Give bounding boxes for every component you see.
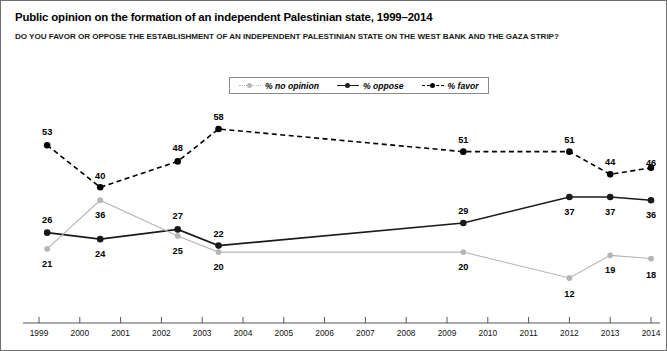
data-point[interactable]: [566, 194, 573, 201]
data-point-label: 21: [42, 259, 52, 269]
series-line-favor: [47, 129, 651, 187]
data-point[interactable]: [174, 158, 181, 165]
data-point[interactable]: [44, 142, 51, 149]
x-axis-tick-label: 2009: [438, 328, 457, 338]
data-point[interactable]: [174, 226, 181, 233]
data-point-label: 58: [213, 112, 223, 122]
x-axis-tick-label: 2006: [315, 328, 334, 338]
x-axis-tick-label: 2014: [642, 328, 661, 338]
x-axis-tick-label: 1999: [30, 328, 49, 338]
data-point-label: 26: [42, 215, 52, 225]
data-point[interactable]: [216, 249, 222, 255]
x-axis-tick-label: 2001: [111, 328, 130, 338]
data-point-label: 29: [458, 206, 468, 216]
data-point[interactable]: [215, 126, 222, 133]
data-point-label: 20: [458, 262, 468, 272]
data-point-label: 27: [173, 211, 183, 221]
data-point[interactable]: [215, 242, 222, 249]
data-point-label: 22: [213, 229, 223, 239]
data-point-label: 18: [646, 270, 656, 280]
data-point-label: 46: [646, 158, 656, 168]
x-axis-tick-label: 2008: [397, 328, 416, 338]
data-point-label: 44: [605, 157, 615, 167]
data-point-label: 36: [646, 210, 656, 220]
data-point-label: 19: [605, 265, 615, 275]
data-point-label: 25: [173, 246, 183, 256]
data-point[interactable]: [607, 171, 614, 178]
data-point-label: 48: [173, 143, 183, 153]
chart-plot-area: 1999200020012002200320042005200620072008…: [1, 1, 667, 351]
data-point-label: 20: [213, 262, 223, 272]
data-point[interactable]: [175, 233, 181, 239]
data-point-label: 51: [458, 135, 468, 145]
data-point[interactable]: [607, 252, 613, 258]
data-point-label: 12: [564, 289, 574, 299]
data-point-label: 36: [95, 210, 105, 220]
x-axis-tick-label: 2011: [520, 328, 538, 338]
data-point[interactable]: [460, 220, 467, 227]
data-point[interactable]: [97, 236, 104, 243]
data-point[interactable]: [566, 148, 573, 155]
data-point[interactable]: [44, 246, 50, 252]
series-line-no-opinion: [47, 200, 651, 278]
x-axis-tick-label: 2002: [152, 328, 171, 338]
data-point[interactable]: [97, 197, 103, 203]
series-line-oppose: [47, 197, 651, 246]
x-axis-tick-label: 2012: [560, 328, 579, 338]
x-axis-tick-label: 2013: [601, 328, 620, 338]
data-point[interactable]: [648, 197, 655, 204]
data-point-label: 53: [42, 127, 52, 137]
data-point[interactable]: [567, 275, 573, 281]
data-point-label: 37: [564, 207, 574, 217]
data-point[interactable]: [607, 194, 614, 201]
x-axis-tick-label: 2000: [70, 328, 89, 338]
chart-figure: Public opinion on the formation of an in…: [0, 0, 667, 351]
x-axis-tick-label: 2007: [356, 328, 375, 338]
x-axis-tick-label: 2003: [193, 328, 212, 338]
x-axis-tick-label: 2005: [274, 328, 293, 338]
data-point-label: 51: [564, 135, 574, 145]
data-point[interactable]: [44, 229, 51, 236]
data-point[interactable]: [460, 148, 467, 155]
data-point[interactable]: [648, 256, 654, 262]
data-point-label: 24: [95, 249, 105, 259]
x-axis-tick-label: 2010: [478, 328, 497, 338]
data-point-label: 40: [95, 171, 105, 181]
data-point-label: 37: [605, 207, 615, 217]
data-point[interactable]: [460, 249, 466, 255]
data-point[interactable]: [97, 184, 104, 191]
x-axis-tick-label: 2004: [234, 328, 253, 338]
